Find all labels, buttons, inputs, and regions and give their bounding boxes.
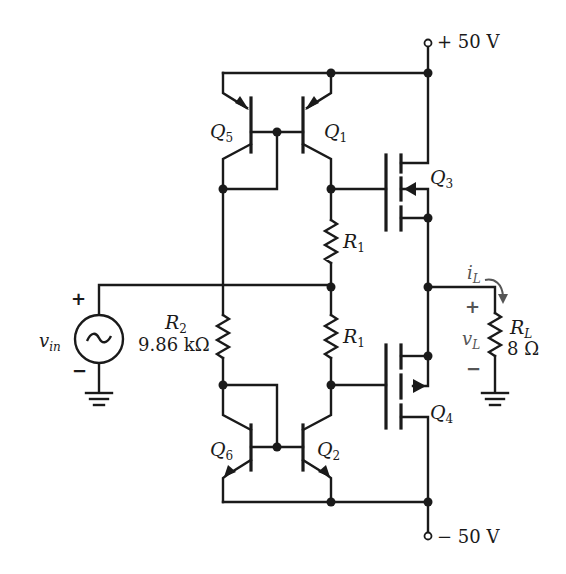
q4-label: Q4 <box>430 403 453 422</box>
r2-label: R2 <box>165 313 187 332</box>
source-minus-sign: − <box>72 362 87 380</box>
source-label: vin <box>39 332 61 350</box>
load-minus-sign: − <box>466 360 481 378</box>
r2-value: 9.86 kΩ <box>138 336 210 354</box>
rl-label: RL <box>510 318 532 337</box>
r1-upper-label: R1 <box>343 232 365 251</box>
negative-supply-label: − 50 V <box>437 528 499 546</box>
rl-value: 8 Ω <box>507 340 539 358</box>
q5-label: Q5 <box>210 122 233 141</box>
load-current-label: iL <box>467 264 481 282</box>
load-plus-sign: + <box>465 298 480 316</box>
source-plus-sign: + <box>71 290 86 308</box>
q6-label: Q6 <box>210 440 233 459</box>
circuit-diagram: + 50 V − 50 V Q5 Q1 Q3 Q4 Q6 Q2 R1 R1 R2… <box>0 0 566 574</box>
r1-lower-label: R1 <box>343 327 365 346</box>
schematic-wires <box>0 0 566 574</box>
positive-supply-label: + 50 V <box>437 33 499 51</box>
q1-label: Q1 <box>324 122 347 141</box>
q2-label: Q2 <box>317 440 340 459</box>
q3-label: Q3 <box>430 168 453 187</box>
load-voltage-label: vL <box>462 330 480 348</box>
